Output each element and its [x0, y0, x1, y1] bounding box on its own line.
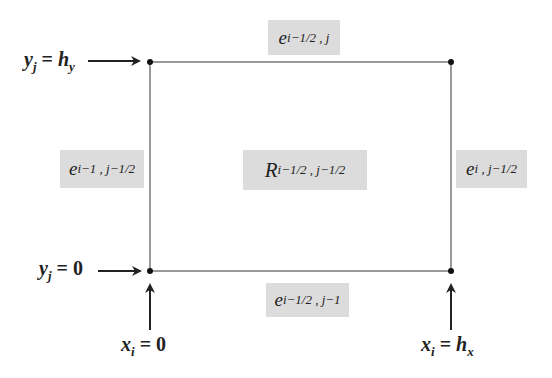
x-right-var: x	[421, 333, 431, 355]
edge-label-top: ei−1/2 , j	[268, 20, 340, 55]
edge-right-sub: i , j−1/2	[475, 161, 517, 177]
cell-main: R	[265, 158, 278, 183]
corner-top-left	[147, 59, 153, 65]
corner-bottom-right	[448, 268, 454, 274]
label-y-top: yj = hy	[24, 48, 75, 75]
x-left-eq: =	[135, 333, 156, 355]
label-x-left: xi = 0	[121, 333, 166, 360]
x-left-var: x	[121, 333, 131, 355]
cell-label-center: Ri−1/2 , j−1/2	[243, 150, 367, 190]
cell-sub: i−1/2 , j−1/2	[278, 162, 346, 178]
y-bottom-var: y	[39, 257, 48, 279]
corner-top-right	[448, 59, 454, 65]
edge-bottom-sub: i−1/2 , j−1	[283, 292, 341, 308]
x-right-eq: =	[435, 333, 456, 355]
x-right-valsub: x	[467, 344, 474, 359]
edge-left-sub: i−1 , j−1/2	[77, 161, 135, 177]
edge-bottom-main: e	[274, 289, 282, 311]
y-top-valsub: y	[69, 59, 75, 74]
y-top-val: h	[58, 48, 69, 70]
label-x-right: xi = hx	[421, 333, 474, 360]
label-y-bottom: yj = 0	[39, 257, 83, 284]
edge-top-sub: i−1/2 , j	[287, 30, 329, 46]
y-top-eq: =	[37, 48, 58, 70]
edge-label-left: ei−1 , j−1/2	[60, 150, 144, 188]
x-left-val: 0	[156, 333, 166, 355]
edge-right-main: e	[466, 158, 474, 180]
y-bottom-eq: =	[52, 257, 73, 279]
edge-label-right: ei , j−1/2	[456, 150, 527, 188]
corner-bottom-left	[147, 268, 153, 274]
edge-top-main: e	[279, 27, 287, 49]
edge-left-main: e	[69, 158, 77, 180]
y-bottom-val: 0	[73, 257, 83, 279]
edge-label-bottom: ei−1/2 , j−1	[266, 283, 349, 317]
x-right-val: h	[456, 333, 467, 355]
y-top-var: y	[24, 48, 33, 70]
